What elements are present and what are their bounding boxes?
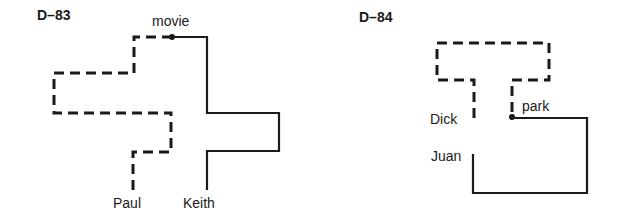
label-movie: movie [152,13,190,29]
junction-dot [169,34,175,40]
diagram-canvas: D–83 movie Paul Keith D–84 park Dick Jua… [0,0,622,217]
label-dick: Dick [430,111,458,127]
label-paul: Paul [113,195,141,211]
dashed-path-paul [54,37,172,190]
junction-dot [509,114,515,120]
label-juan: Juan [431,148,461,164]
diagram-d83: D–83 movie Paul Keith [37,7,279,211]
label-keith: Keith [183,195,215,211]
solid-path-juan [473,118,587,193]
diagram-d84: D–84 park Dick Juan [359,9,587,193]
solid-path-keith [172,37,279,190]
label-park: park [522,98,550,114]
diagram-title: D–83 [37,7,71,23]
diagram-title: D–84 [359,9,393,25]
